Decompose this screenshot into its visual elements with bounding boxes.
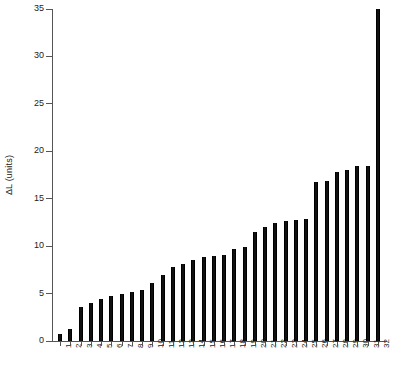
x-tick-11	[163, 342, 164, 346]
x-tick-25	[306, 342, 307, 346]
x-tick-17	[224, 342, 225, 346]
bar-10	[150, 283, 154, 341]
y-tick-0	[46, 341, 52, 342]
bar-30	[355, 166, 359, 341]
bar-3	[79, 307, 83, 341]
x-tick-5	[101, 342, 102, 346]
y-tick-5	[46, 293, 52, 294]
x-tick-24	[296, 342, 297, 346]
y-tick-label-20: 20	[4, 146, 44, 155]
bar-29	[345, 170, 349, 341]
x-tick-1	[60, 342, 61, 346]
x-tick-29	[347, 342, 348, 346]
x-tick-15	[204, 342, 205, 346]
bar-4	[89, 303, 93, 341]
bar-32	[376, 9, 380, 341]
bar-20	[253, 232, 257, 341]
bar-chart: ΔL (units) 05101520253035 12345678910111…	[0, 0, 396, 368]
bar-12	[171, 267, 175, 341]
x-tick-10	[152, 342, 153, 346]
bar-2	[68, 329, 72, 341]
y-tick-label-25: 25	[4, 99, 44, 108]
bar-18	[232, 249, 236, 341]
y-tick-10	[46, 246, 52, 247]
x-tick-16	[214, 342, 215, 346]
bar-14	[191, 260, 195, 341]
bar-15	[202, 257, 206, 341]
y-tick-20	[46, 151, 52, 152]
bar-7	[120, 294, 124, 341]
bar-28	[335, 172, 339, 341]
bar-22	[273, 223, 277, 341]
y-tick-label-35: 35	[4, 4, 44, 13]
y-tick-25	[46, 103, 52, 104]
bar-5	[99, 299, 103, 341]
x-tick-30	[357, 342, 358, 346]
bar-25	[304, 219, 308, 341]
bar-17	[222, 255, 226, 341]
y-tick-label-5: 5	[4, 289, 44, 298]
x-tick-23	[286, 342, 287, 346]
x-tick-6	[111, 342, 112, 346]
x-tick-31	[368, 342, 369, 346]
x-tick-label-32: 32	[382, 339, 391, 348]
x-tick-7	[122, 342, 123, 346]
bar-11	[161, 275, 165, 341]
bar-16	[212, 256, 216, 341]
x-tick-21	[265, 342, 266, 346]
bar-8	[130, 292, 134, 341]
bar-23	[284, 221, 288, 341]
bar-24	[294, 220, 298, 341]
x-tick-2	[70, 342, 71, 346]
bar-9	[140, 290, 144, 341]
y-tick-15	[46, 198, 52, 199]
y-tick-30	[46, 56, 52, 57]
x-tick-12	[173, 342, 174, 346]
x-tick-18	[234, 342, 235, 346]
x-tick-22	[275, 342, 276, 346]
y-tick-label-10: 10	[4, 241, 44, 250]
x-tick-27	[327, 342, 328, 346]
x-tick-3	[81, 342, 82, 346]
x-tick-28	[337, 342, 338, 346]
bar-26	[314, 182, 318, 341]
y-tick-label-15: 15	[4, 194, 44, 203]
x-tick-13	[183, 342, 184, 346]
y-tick-35	[46, 9, 52, 10]
y-axis-line	[52, 9, 53, 342]
y-tick-label-0: 0	[4, 336, 44, 345]
bar-1	[58, 334, 62, 341]
x-tick-20	[255, 342, 256, 346]
x-tick-4	[91, 342, 92, 346]
bar-31	[366, 166, 370, 341]
x-tick-9	[142, 342, 143, 346]
x-tick-14	[193, 342, 194, 346]
x-tick-26	[316, 342, 317, 346]
x-tick-8	[132, 342, 133, 346]
bar-13	[181, 264, 185, 341]
x-tick-19	[245, 342, 246, 346]
bar-6	[109, 296, 113, 341]
x-tick-32	[378, 342, 379, 346]
bar-27	[325, 181, 329, 341]
bar-19	[243, 247, 247, 341]
bar-21	[263, 227, 267, 341]
y-tick-label-30: 30	[4, 51, 44, 60]
